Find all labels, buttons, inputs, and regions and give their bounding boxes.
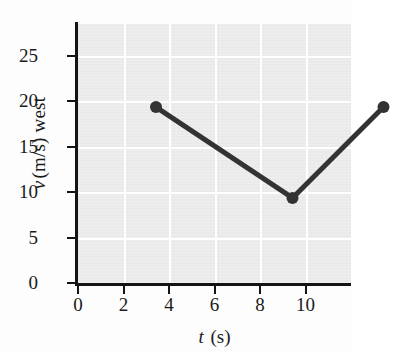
gridline-vertical — [124, 24, 126, 283]
x-axis-tick-label: 0 — [58, 295, 98, 314]
plot-area — [78, 24, 351, 283]
x-axis-title: t (s) — [78, 326, 351, 348]
x-axis-variable: t — [198, 326, 205, 347]
x-axis-tick-label: 6 — [195, 295, 235, 314]
y-axis-title: v (m/s) west — [26, 8, 52, 278]
x-axis-tick — [305, 286, 307, 294]
y-axis-tick — [67, 55, 75, 57]
gridline-vertical — [169, 24, 171, 283]
y-axis-unit: (m/s) west — [28, 97, 50, 179]
y-axis-tick — [67, 237, 75, 239]
x-axis-tick-label: 2 — [104, 295, 144, 314]
x-axis-tick — [259, 286, 261, 294]
x-axis-tick-label: 4 — [149, 295, 189, 314]
y-axis-tick — [67, 146, 75, 148]
y-axis-tick — [67, 100, 75, 102]
gridline-horizontal — [78, 101, 351, 103]
x-axis-tick — [123, 286, 125, 294]
x-axis-tick — [214, 286, 216, 294]
x-axis-tick-label: 8 — [240, 295, 280, 314]
x-axis-unit: (s) — [210, 326, 230, 347]
x-axis-tick-label: 10 — [286, 295, 326, 314]
gridline-horizontal — [78, 238, 351, 240]
gridline-horizontal — [78, 147, 351, 149]
gridline-horizontal — [78, 56, 351, 58]
x-axis-tick — [168, 286, 170, 294]
y-axis-tick — [67, 282, 75, 284]
y-axis-line — [75, 22, 78, 285]
gridline-horizontal — [78, 192, 351, 194]
gridline-vertical — [260, 24, 262, 283]
gridline-vertical — [306, 24, 308, 283]
data-point — [378, 101, 390, 113]
y-axis-variable: v — [28, 179, 50, 190]
gridline-vertical — [215, 24, 217, 283]
y-axis-tick — [67, 191, 75, 193]
x-axis-tick — [77, 286, 79, 294]
